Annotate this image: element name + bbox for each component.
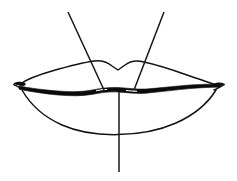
lips-drawing [0, 0, 237, 181]
figure-canvas: Lips line drawing with construction guid… [0, 0, 237, 181]
